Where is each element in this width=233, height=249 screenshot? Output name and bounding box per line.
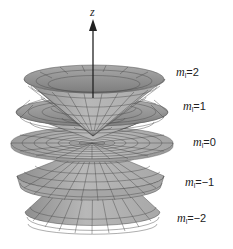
z-axis-label: z bbox=[89, 5, 95, 19]
label-m-0: ml=0 bbox=[193, 135, 216, 149]
label-m-1: ml=1 bbox=[183, 99, 206, 113]
svg-text:ml=−2: ml=−2 bbox=[177, 211, 206, 225]
svg-text:ml=2: ml=2 bbox=[176, 65, 199, 79]
arrowhead-icon bbox=[89, 19, 97, 31]
svg-text:ml=0: ml=0 bbox=[193, 135, 216, 149]
label-m-minus-2: ml=−2 bbox=[177, 211, 206, 225]
svg-text:ml=1: ml=1 bbox=[183, 99, 206, 113]
label-m-2: ml=2 bbox=[176, 65, 199, 79]
cone-m-2 bbox=[24, 65, 165, 136]
angular-momentum-cone-diagram: z ml=2 ml=1 ml=0 ml=−1 ml=−2 bbox=[0, 0, 233, 249]
svg-text:ml=−1: ml=−1 bbox=[185, 175, 214, 189]
label-m-minus-1: ml=−1 bbox=[185, 175, 214, 189]
